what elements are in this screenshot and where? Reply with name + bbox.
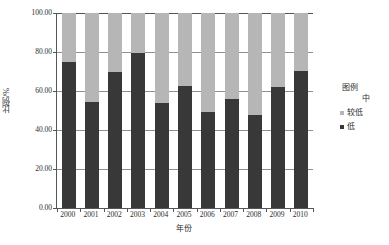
y-tick-mark [53,91,57,92]
y-tick-mark [53,52,57,53]
legend-item[interactable]: 较低 [340,107,388,118]
bar-stack[interactable] [108,13,122,208]
bar-stack[interactable] [62,13,76,208]
legend-title: 图例 [340,82,388,93]
bar-segment-mid[interactable] [178,13,192,86]
y-axis-title: 比例/% [2,88,16,113]
bar-segment-mid[interactable] [155,13,169,103]
y-tick-mark [53,13,57,14]
bar-segment-low[interactable] [248,115,262,208]
bar-stack[interactable] [155,13,169,208]
bar-segment-low[interactable] [201,112,215,208]
y-tick-label: 60.00 [35,87,52,95]
plot-area [56,13,313,209]
bar-stack[interactable] [201,13,215,208]
bar-segment-low[interactable] [85,102,99,208]
bar-segment-low[interactable] [271,87,285,208]
bar-stack[interactable] [248,13,262,208]
y-tick-label: 0.00 [39,204,52,212]
legend-swatch-icon [340,111,344,115]
bar-segment-low[interactable] [225,99,239,208]
legend-item[interactable]: 低 [340,121,388,132]
x-axis-tick-labels: 2000200120022003200420052006200720082009… [56,210,312,224]
bar-segment-mid[interactable] [108,13,122,72]
x-tick-label: 2010 [285,210,315,220]
y-tick-label: 20.00 [35,165,52,173]
bar-segment-mid[interactable] [225,13,239,99]
bar-segment-mid[interactable] [271,13,285,87]
x-axis-title: 年份 [56,224,312,234]
bar-segment-low[interactable] [131,53,145,208]
y-tick-label: 80.00 [35,48,52,56]
bar-stack[interactable] [131,13,145,208]
bar-segment-mid[interactable] [85,13,99,102]
bar-stack[interactable] [225,13,239,208]
bar-segment-low[interactable] [294,71,308,208]
legend-label: 较低 [347,107,363,118]
legend-swatch-icon [340,125,344,129]
legend-label: 低 [347,121,355,132]
y-tick-mark [53,169,57,170]
legend-subtitle: 中 [340,93,388,104]
bar-stack[interactable] [85,13,99,208]
bar-stack[interactable] [178,13,192,208]
y-tick-mark [53,130,57,131]
bar-segment-low[interactable] [62,62,76,208]
bar-stack[interactable] [294,13,308,208]
bar-segment-low[interactable] [155,103,169,208]
bar-segment-low[interactable] [108,72,122,208]
y-axis-tick-labels: 0.0020.0040.0060.0080.00100.00 [16,0,54,245]
y-tick-label: 40.00 [35,126,52,134]
bar-segment-low[interactable] [178,86,192,208]
bar-segment-mid[interactable] [294,13,308,71]
bar-stack[interactable] [271,13,285,208]
bar-segment-mid[interactable] [131,13,145,53]
bar-segment-mid[interactable] [62,13,76,62]
stacked-bar-chart: 比例/% 0.0020.0040.0060.0080.00100.00 2000… [0,0,389,245]
y-tick-label: 100.00 [31,9,52,17]
bar-segment-mid[interactable] [201,13,215,112]
bar-segment-mid[interactable] [248,13,262,115]
chart-legend: 图例 中 较低低 [340,82,388,132]
legend-entries: 较低低 [340,107,388,132]
